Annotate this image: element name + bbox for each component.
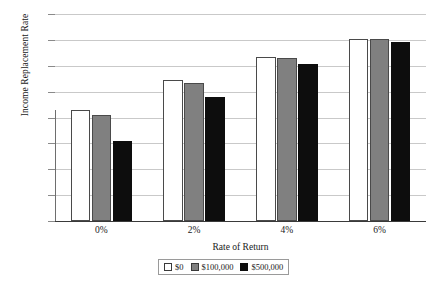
x-tick-label: 2% xyxy=(164,226,224,236)
bar-chart: Income Replacement Rate 80%70%60%50%40%3… xyxy=(0,0,431,284)
bar xyxy=(92,115,112,221)
gridline xyxy=(55,14,426,15)
bar xyxy=(298,64,318,221)
y-tick-mark xyxy=(48,169,55,170)
y-tick-mark xyxy=(48,221,55,222)
bar xyxy=(113,141,133,221)
bar xyxy=(256,57,276,221)
bar xyxy=(277,58,297,221)
legend-label: $500,000 xyxy=(251,263,283,272)
legend-label: $0 xyxy=(175,263,184,272)
bar xyxy=(349,39,369,221)
legend-item: $100,000 xyxy=(191,263,234,272)
y-tick-mark xyxy=(48,118,55,119)
x-tick-label: 4% xyxy=(257,226,317,236)
bar xyxy=(184,83,204,221)
y-axis-title: Income Replacement Rate xyxy=(20,0,30,150)
legend-swatch-icon xyxy=(164,263,172,271)
legend-item: $0 xyxy=(164,263,184,272)
bar xyxy=(205,97,225,221)
bar xyxy=(370,39,390,221)
x-tick-label: 6% xyxy=(350,226,410,236)
y-tick-mark xyxy=(48,40,55,41)
gridline xyxy=(55,221,426,222)
legend-label: $100,000 xyxy=(202,263,234,272)
plot-area: 80%70%60%50%40%30%20%10%0% 0%2%4%6% Rate… xyxy=(55,14,426,221)
y-tick-mark xyxy=(48,143,55,144)
bar xyxy=(71,110,91,221)
y-axis-line xyxy=(55,110,56,221)
y-tick-mark xyxy=(48,195,55,196)
bar xyxy=(391,42,411,221)
chart-legend: $0$100,000$500,000 xyxy=(158,259,289,275)
legend-item: $500,000 xyxy=(240,263,283,272)
y-tick-mark xyxy=(48,66,55,67)
y-tick-mark xyxy=(48,92,55,93)
y-tick-mark xyxy=(48,14,55,15)
x-tick-label: 0% xyxy=(71,226,131,236)
legend-swatch-icon xyxy=(240,263,248,271)
bar xyxy=(163,80,183,221)
legend-swatch-icon xyxy=(191,263,199,271)
x-axis-title: Rate of Return xyxy=(55,242,426,252)
